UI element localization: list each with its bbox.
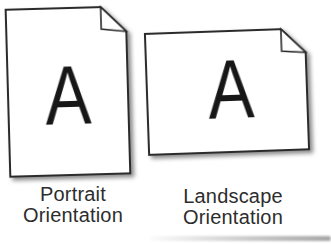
landscape-caption: Landscape Orientation (159, 186, 307, 228)
portrait-page-folded-corner-icon: A (0, 0, 143, 188)
scan-artifact-line (150, 236, 331, 241)
orientation-figure: A A Portrait Orientation Landscape Orien… (0, 0, 331, 244)
landscape-caption-line2: Orientation (159, 207, 307, 228)
portrait-letter: A (44, 47, 93, 142)
landscape-page-folded-corner-icon: A (138, 19, 323, 165)
portrait-caption: Portrait Orientation (6, 184, 140, 226)
landscape-letter: A (206, 41, 256, 137)
portrait-caption-line2: Orientation (6, 205, 140, 226)
portrait-folded-corner-icon (101, 6, 127, 32)
portrait-caption-line1: Portrait (6, 184, 140, 205)
landscape-caption-line1: Landscape (159, 186, 307, 207)
landscape-folded-corner-icon (281, 28, 306, 53)
